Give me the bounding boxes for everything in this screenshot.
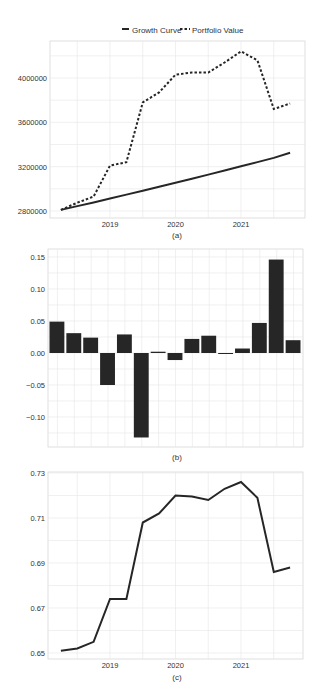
y-tick-label: 0.73 [30,469,45,478]
bar [151,352,166,353]
y-axis-ticks: 2800000320000036000004000000 [18,74,47,216]
legend-growth-label: Growth Curve [132,26,182,35]
bar [83,338,98,353]
y-tick-label: −0.05 [26,381,45,390]
x-tick-label: 2021 [233,661,250,670]
x-tick-label: 2019 [102,220,119,229]
legend-portfolio-label: Portfolio Value [192,26,244,35]
y-tick-label: 0.05 [30,317,45,326]
bar [286,340,301,353]
y-tick-label: 0.71 [30,514,45,523]
legend: Growth Curve Portfolio Value [122,26,244,35]
bar [218,353,233,354]
plot-area [50,41,305,218]
x-tick-label: 2021 [233,220,250,229]
bar [117,334,132,353]
x-tick-label: 2020 [167,661,184,670]
y-axis-ticks: 0.650.670.690.710.73 [30,469,45,658]
bar [235,349,250,353]
bar [252,323,267,353]
chart-b-returns-bars: −0.10−0.050.000.050.100.15 (b) [26,249,303,462]
y-tick-label: 2800000 [18,207,47,216]
y-tick-label: 0.15 [30,253,45,262]
x-tick-label: 2020 [167,220,184,229]
bar [168,353,183,360]
y-tick-label: 0.65 [30,649,45,658]
chart-c-ratio-line: 0.650.670.690.710.73 201920202021 (c) [30,469,303,682]
y-tick-label: −0.10 [26,413,45,422]
chart-a-growth-vs-portfolio: 2800000320000036000004000000 20192020202… [18,41,305,240]
y-tick-label: 3200000 [18,163,47,172]
x-tick-label: 2019 [102,661,119,670]
bar [100,353,115,385]
chart-a-caption: (a) [172,231,182,240]
x-axis-ticks: 201920202021 [102,220,250,229]
y-tick-label: 0.67 [30,604,45,613]
bar [201,336,216,353]
y-tick-label: 0.00 [30,349,45,358]
bar [184,339,199,353]
chart-c-caption: (c) [172,673,182,682]
figure: Growth Curve Portfolio Value 28000003200… [0,0,327,694]
chart-b-caption: (b) [172,453,182,462]
y-tick-label: 0.10 [30,285,45,294]
x-axis-ticks: 201920202021 [102,661,250,670]
y-tick-label: 3600000 [18,118,47,127]
bar [269,260,284,353]
bar [66,333,81,353]
y-tick-label: 4000000 [18,74,47,83]
y-tick-label: 0.69 [30,559,45,568]
y-axis-ticks: −0.10−0.050.000.050.100.15 [26,253,45,422]
bar [134,353,149,437]
bar [50,322,65,353]
